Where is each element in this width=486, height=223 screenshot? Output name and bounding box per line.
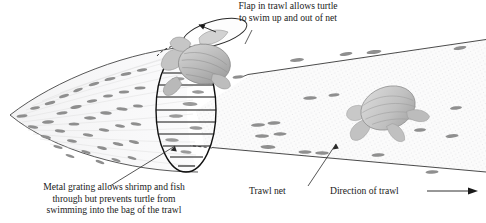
trawl-net-body [185,40,486,173]
label-direction-of-trawl: Direction of trawl [330,185,440,197]
label-metal-grating: Metal grating allows shrimp and fish thr… [8,181,220,216]
flap-leader-line [245,30,252,44]
label-flap: Flap in trawl allows turtle to swim up a… [222,0,354,23]
diagram-canvas: Flap in trawl allows turtle to swim up a… [0,0,486,223]
turtle-front-flipper-right [210,73,232,90]
direction-arrow-head [468,188,478,195]
net-mesh-fill [196,40,486,172]
net-top-seam [243,75,248,77]
label-trawl-net: Trawl net [249,185,311,197]
